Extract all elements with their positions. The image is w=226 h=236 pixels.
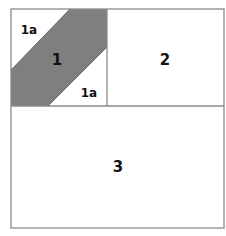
label-3: 3 — [113, 158, 123, 176]
label-2: 2 — [160, 51, 170, 69]
label-1a-top: 1a — [21, 23, 37, 37]
label-1: 1 — [52, 51, 62, 69]
label-1a-bottom: 1a — [81, 86, 97, 100]
